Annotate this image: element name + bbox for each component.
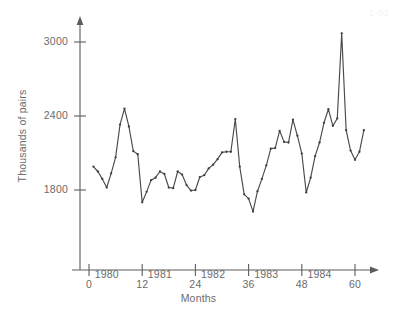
data-point [132,150,134,152]
data-point [114,156,116,158]
data-point [203,174,205,176]
x-axis-title: Months [0,292,397,304]
data-point [194,189,196,191]
data-point [168,186,170,188]
series-markers [92,32,365,213]
data-point [305,191,307,193]
data-point [212,164,214,166]
y-tick-label: 2400 [22,109,68,121]
data-point [208,167,210,169]
data-point [318,141,320,143]
y-axis-title: Thousands of pairs [16,76,28,196]
x-tick-label: 60 [335,278,375,290]
data-point [150,179,152,181]
data-point [261,178,263,180]
data-point [341,32,343,34]
year-label: 1984 [302,268,338,280]
data-point [243,193,245,195]
data-point [177,170,179,172]
data-point [239,165,241,167]
data-point [256,190,258,192]
year-label: 1982 [195,268,231,280]
data-point [301,152,303,154]
data-point [159,170,161,172]
data-point [265,164,267,166]
data-point [349,149,351,151]
data-point [92,165,94,167]
data-point [119,123,121,125]
y-tick-label: 1800 [22,183,68,195]
data-point [292,119,294,121]
data-point [216,158,218,160]
year-label: 1980 [89,268,125,280]
data-point [363,129,365,131]
data-point [323,122,325,124]
data-point [283,141,285,143]
data-point [230,151,232,153]
data-point [106,186,108,188]
data-point [358,151,360,153]
data-point [296,135,298,137]
data-point [97,170,99,172]
data-point [163,173,165,175]
data-series-line [92,32,365,213]
x-axis-arrow-icon [370,267,379,274]
data-point [185,184,187,186]
data-point [247,197,249,199]
data-point [252,210,254,212]
data-point [354,159,356,161]
data-point [221,151,223,153]
data-point [287,141,289,143]
data-point [199,176,201,178]
data-point [141,201,143,203]
data-point [225,151,227,153]
data-point [181,173,183,175]
y-tick-label: 3000 [22,35,68,47]
data-point [332,125,334,127]
year-label: 1983 [248,268,284,280]
data-point [172,187,174,189]
data-point [234,118,236,120]
data-point [110,172,112,174]
data-point [101,178,103,180]
data-point [278,130,280,132]
data-point [154,177,156,179]
year-label: 1981 [142,268,178,280]
data-point [310,177,312,179]
chart-figure: Thousands of pairs Months 180024003000 0… [0,0,397,320]
data-point [190,189,192,191]
data-point [128,125,130,127]
chart-axes [72,16,379,273]
data-point [327,108,329,110]
data-point [137,153,139,155]
data-point [145,191,147,193]
data-point [345,129,347,131]
data-point [274,147,276,149]
data-point [314,155,316,157]
y-axis-arrow-icon [77,16,84,25]
data-point [336,117,338,119]
data-point [123,107,125,109]
watermark-text: 1-03 [369,8,389,18]
data-point [270,148,272,150]
